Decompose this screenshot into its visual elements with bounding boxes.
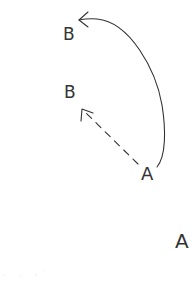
dashed-arrow-a-to-b-mid: [81, 109, 138, 164]
scan-noise-specks: [0, 265, 60, 285]
curved-arrow-a-to-b-top: [79, 12, 165, 167]
diagram-canvas: B B A A: [0, 0, 194, 295]
arrowhead-icon: [81, 109, 93, 121]
node-label-a-middle: A: [141, 165, 153, 183]
node-label-a-bottom: A: [175, 231, 189, 251]
node-label-b-middle: B: [64, 84, 76, 101]
node-label-b-top: B: [63, 26, 75, 43]
arrows-layer: [0, 0, 194, 295]
